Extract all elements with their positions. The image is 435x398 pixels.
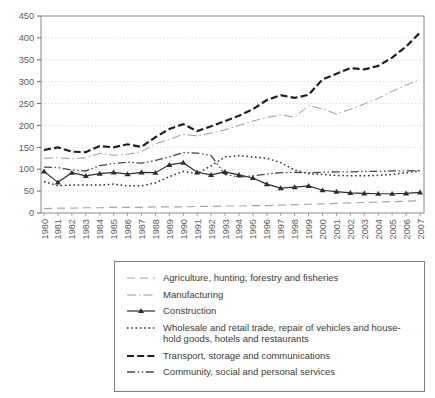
- svg-text:1986: 1986: [123, 219, 133, 239]
- svg-text:2007: 2007: [416, 219, 426, 239]
- svg-text:1988: 1988: [151, 219, 161, 239]
- svg-text:200: 200: [19, 121, 34, 131]
- legend-label-wholesale-retail: Wholesale and retail trade, repair of ve…: [163, 322, 401, 345]
- svg-text:1992: 1992: [207, 219, 217, 239]
- svg-text:2004: 2004: [374, 219, 384, 239]
- svg-text:350: 350: [19, 55, 34, 65]
- legend-label-transport: Transport, storage and communications: [163, 350, 330, 362]
- svg-text:2006: 2006: [402, 219, 412, 239]
- svg-text:1993: 1993: [221, 219, 231, 239]
- svg-text:1981: 1981: [53, 219, 63, 239]
- legend-label-agriculture: Agriculture, hunting, forestry and fishe…: [163, 272, 338, 284]
- line-chart: 0501001502002503003504004501980198119821…: [0, 0, 435, 255]
- svg-text:1987: 1987: [137, 219, 147, 239]
- legend-line-sample-wholesale-retail: [127, 323, 155, 333]
- svg-text:1998: 1998: [290, 219, 300, 239]
- legend-label-community: Community, social and personal services: [163, 366, 335, 378]
- svg-text:1984: 1984: [95, 219, 105, 239]
- legend-label-wholesale-line2: hold goods, hotels and restaurants: [163, 333, 401, 345]
- svg-text:400: 400: [19, 33, 34, 43]
- svg-text:100: 100: [19, 164, 34, 174]
- legend-label-wholesale-line1: Wholesale and retail trade, repair of ve…: [163, 322, 401, 334]
- legend-line-sample-agriculture: [127, 273, 155, 283]
- legend-label-manufacturing: Manufacturing: [163, 289, 223, 301]
- svg-text:1983: 1983: [81, 219, 91, 239]
- svg-text:1991: 1991: [193, 219, 203, 239]
- legend-line-sample-community: [127, 367, 155, 377]
- legend-line-sample-manufacturing: [127, 290, 155, 300]
- svg-text:1990: 1990: [179, 219, 189, 239]
- svg-text:2002: 2002: [346, 219, 356, 239]
- legend-item-manufacturing: Manufacturing: [127, 289, 416, 301]
- svg-text:150: 150: [19, 143, 34, 153]
- svg-text:1982: 1982: [67, 219, 77, 239]
- svg-text:2000: 2000: [318, 219, 328, 239]
- svg-text:1980: 1980: [40, 219, 50, 239]
- legend-item-agriculture: Agriculture, hunting, forestry and fishe…: [127, 272, 416, 284]
- legend-line-sample-transport: [127, 351, 155, 361]
- legend-line-sample-construction: [127, 306, 155, 316]
- legend-label-construction: Construction: [163, 305, 216, 317]
- legend-item-transport: Transport, storage and communications: [127, 350, 416, 362]
- chart-page: 0501001502002503003504004501980198119821…: [0, 0, 435, 398]
- svg-text:1999: 1999: [304, 219, 314, 239]
- svg-text:1997: 1997: [276, 219, 286, 239]
- svg-text:250: 250: [19, 99, 34, 109]
- legend-item-construction: Construction: [127, 305, 416, 317]
- svg-text:300: 300: [19, 77, 34, 87]
- legend-item-wholesale-retail: Wholesale and retail trade, repair of ve…: [127, 322, 416, 345]
- svg-text:0: 0: [29, 208, 34, 218]
- svg-text:1996: 1996: [262, 219, 272, 239]
- svg-text:2003: 2003: [360, 219, 370, 239]
- svg-text:1995: 1995: [248, 219, 258, 239]
- svg-text:2005: 2005: [388, 219, 398, 239]
- svg-text:1989: 1989: [165, 219, 175, 239]
- svg-text:450: 450: [19, 11, 34, 21]
- legend-item-community: Community, social and personal services: [127, 366, 416, 378]
- chart-legend: Agriculture, hunting, forestry and fishe…: [114, 261, 425, 392]
- svg-text:1985: 1985: [109, 219, 119, 239]
- svg-text:50: 50: [24, 186, 34, 196]
- svg-text:1994: 1994: [234, 219, 244, 239]
- svg-text:2001: 2001: [332, 219, 342, 239]
